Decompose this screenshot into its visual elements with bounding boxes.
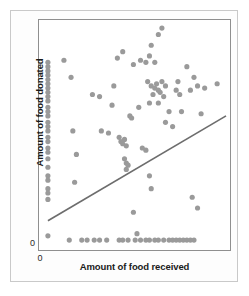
data-point: [143, 60, 148, 65]
data-point: [199, 111, 204, 116]
data-point: [138, 238, 143, 243]
data-point: [190, 195, 195, 200]
data-point: [92, 238, 97, 243]
data-point: [161, 94, 166, 99]
data-point: [45, 150, 50, 155]
data-point: [45, 190, 50, 195]
data-point: [74, 152, 79, 157]
data-point: [156, 32, 161, 37]
data-point: [61, 58, 66, 63]
data-point: [147, 100, 152, 105]
data-point: [45, 98, 50, 103]
scatter-plot: Amount of food donated Amount of food re…: [11, 11, 239, 283]
data-point: [195, 83, 200, 88]
data-point: [147, 238, 152, 243]
data-point: [145, 79, 150, 84]
data-point: [163, 120, 168, 125]
scatter-svg: [39, 20, 230, 250]
data-point: [124, 143, 129, 148]
data-point: [125, 238, 130, 243]
data-point: [131, 62, 136, 67]
x-axis-tick-zero: 0: [33, 253, 47, 263]
data-point: [129, 115, 134, 120]
data-point: [149, 186, 154, 191]
data-point: [45, 156, 50, 161]
data-point: [147, 53, 152, 58]
data-point: [134, 231, 139, 236]
data-point: [45, 233, 50, 238]
data-point: [138, 58, 143, 63]
data-point: [177, 92, 182, 97]
data-point: [154, 81, 159, 86]
data-point: [170, 124, 175, 129]
data-point: [99, 128, 104, 133]
data-point: [131, 210, 136, 215]
data-point: [70, 128, 75, 133]
data-point: [163, 83, 168, 88]
data-point: [161, 238, 166, 243]
data-point: [150, 92, 155, 97]
data-point: [45, 197, 50, 202]
data-point: [45, 128, 50, 133]
data-point: [111, 83, 116, 88]
data-point: [97, 94, 102, 99]
data-point: [191, 75, 196, 80]
data-point: [179, 109, 184, 114]
data-point: [115, 55, 120, 60]
x-axis-label: Amount of food received: [38, 261, 231, 272]
data-point: [104, 238, 109, 243]
data-point: [120, 49, 125, 54]
data-point: [45, 178, 50, 183]
data-point: [136, 105, 141, 110]
data-point: [188, 88, 193, 93]
data-point: [45, 165, 50, 170]
data-point: [124, 167, 129, 172]
data-point: [149, 43, 154, 48]
data-point: [90, 92, 95, 97]
data-point: [67, 238, 72, 243]
y-axis-tick-zero: 0: [21, 238, 35, 248]
data-point: [191, 238, 196, 243]
data-point: [72, 180, 77, 185]
data-point: [45, 139, 50, 144]
figure-card: Amount of food donated Amount of food re…: [10, 10, 238, 282]
data-point: [202, 85, 207, 90]
data-point: [156, 100, 161, 105]
data-point: [175, 79, 180, 84]
data-point: [166, 109, 171, 114]
data-point: [159, 26, 164, 31]
data-point: [120, 238, 125, 243]
data-point: [174, 88, 179, 93]
data-point: [85, 238, 90, 243]
data-point: [215, 81, 220, 86]
data-point: [156, 238, 161, 243]
data-point: [68, 75, 73, 80]
data-point: [97, 238, 102, 243]
data-point: [79, 238, 84, 243]
data-point: [159, 79, 164, 84]
data-point: [109, 103, 114, 108]
data-point: [147, 173, 152, 178]
data-point: [106, 130, 111, 135]
data-point: [184, 64, 189, 69]
plot-area: [38, 19, 231, 251]
y-axis-label: Amount of food donated: [34, 23, 45, 203]
data-point: [45, 113, 50, 118]
data-point: [152, 60, 157, 65]
data-point: [133, 238, 138, 243]
data-point: [158, 90, 163, 95]
data-point: [122, 137, 127, 142]
data-point: [143, 148, 148, 153]
data-point: [195, 205, 200, 210]
